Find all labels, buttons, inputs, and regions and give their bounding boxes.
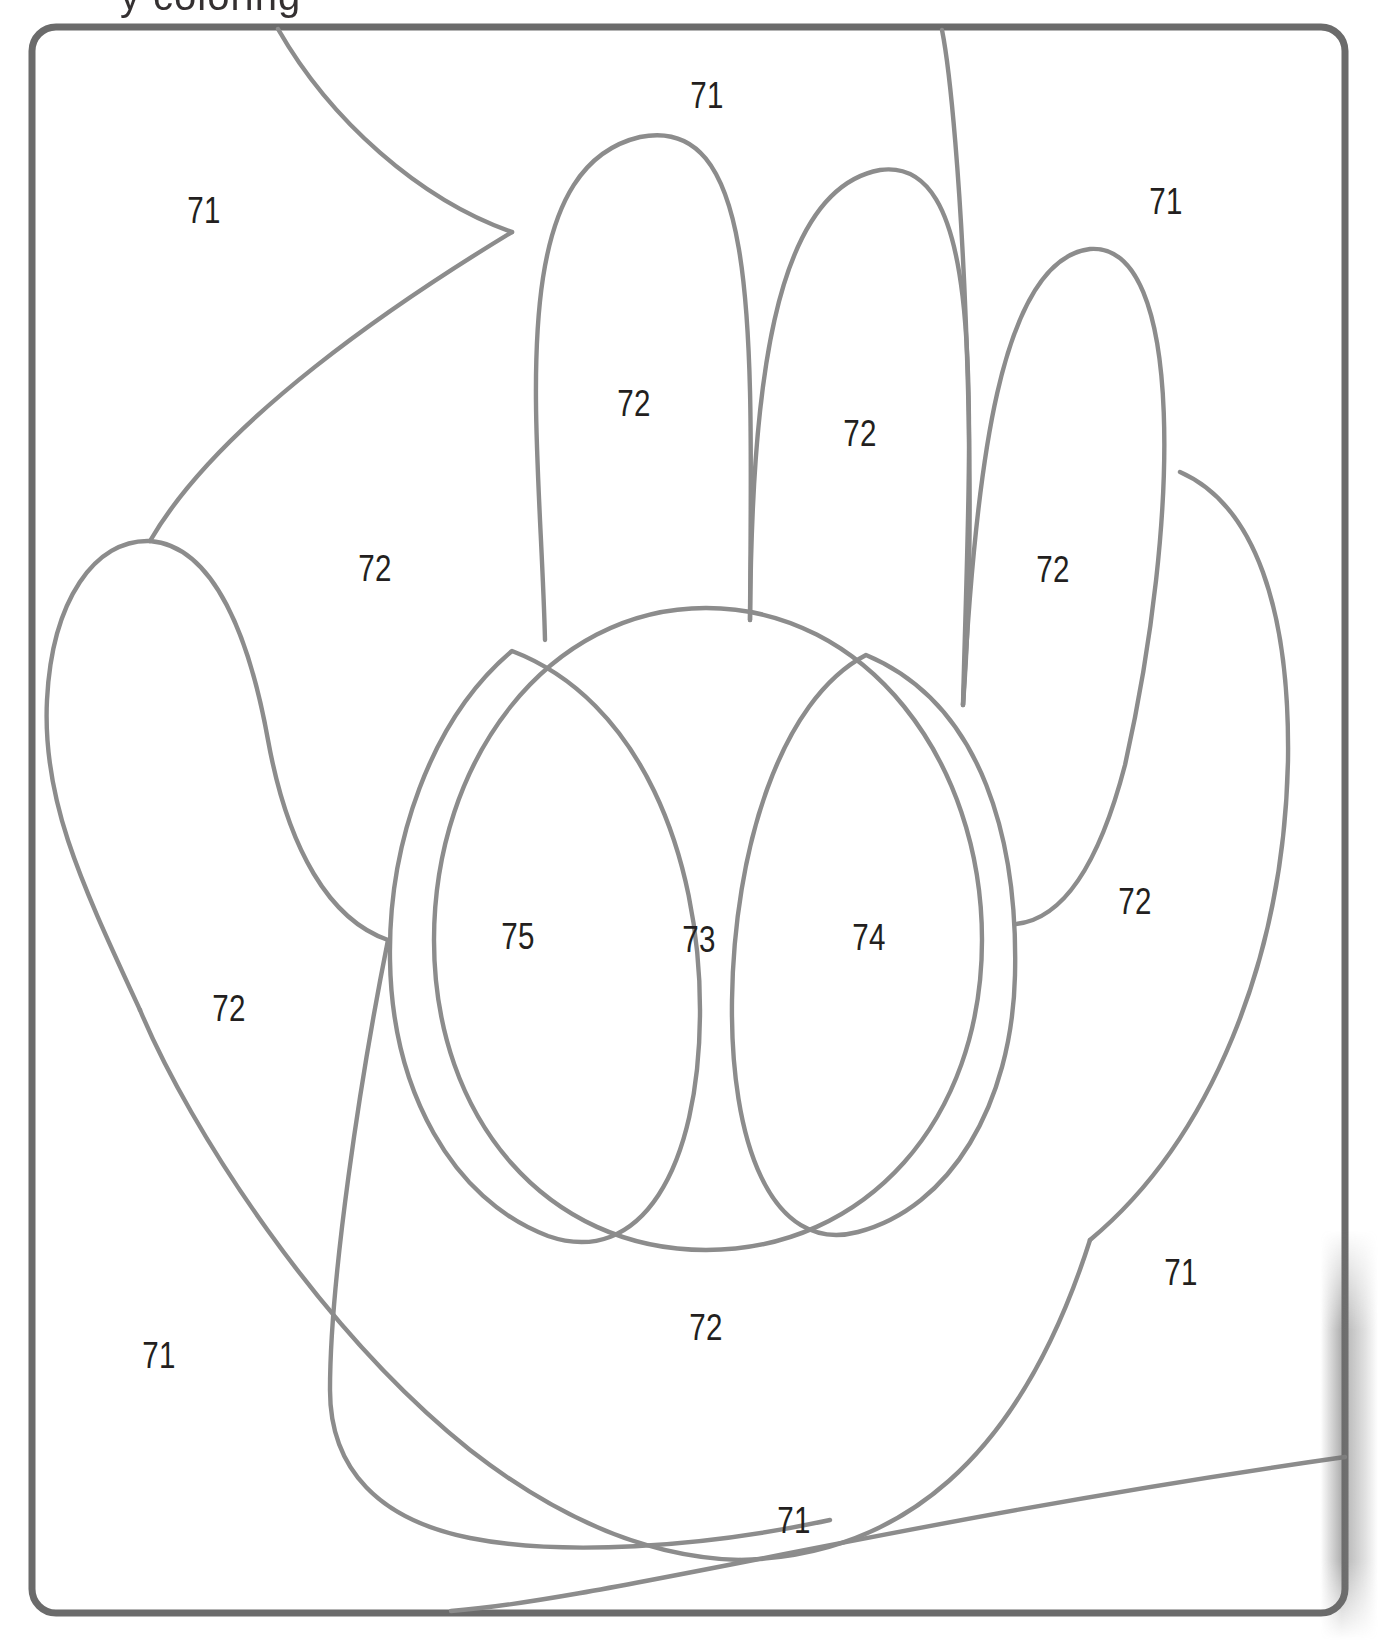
hand-line-art-svg	[0, 0, 1378, 1650]
region-label: 71	[690, 78, 724, 114]
region-label: 72	[843, 416, 877, 452]
region-label: 71	[187, 193, 221, 229]
bottom-long-shallow-arc	[451, 1457, 1345, 1611]
region-label: 72	[212, 991, 246, 1027]
left-inner-oval	[390, 651, 700, 1242]
region-label: 73	[682, 922, 716, 958]
palm-right-outer-contour	[1090, 472, 1288, 1240]
region-label: 72	[1118, 884, 1152, 920]
region-label: 72	[617, 386, 651, 422]
region-label: 75	[501, 919, 535, 955]
region-label: 74	[852, 920, 886, 956]
thumb-inner-crease	[150, 541, 388, 940]
region-label: 72	[358, 551, 392, 587]
region-label: 71	[1164, 1255, 1198, 1291]
region-label: 71	[142, 1338, 176, 1374]
thumb-outline	[47, 541, 150, 1010]
region-label: 71	[777, 1503, 811, 1539]
scanned-page: y coloring	[0, 0, 1378, 1650]
palm-lower-left-arc	[140, 1010, 740, 1560]
region-label: 71	[1149, 184, 1183, 220]
upper-left-sweep-curve	[278, 29, 512, 232]
region-label: 72	[689, 1310, 723, 1346]
palm-left-contour	[150, 232, 512, 541]
region-label: 72	[1036, 552, 1070, 588]
page-border-rect	[32, 27, 1345, 1613]
